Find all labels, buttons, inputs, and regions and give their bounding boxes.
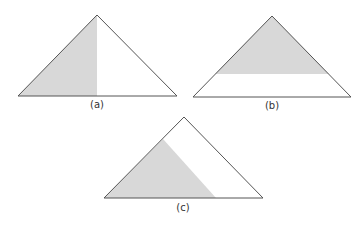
triangles-diagram: (a) (b) (c) bbox=[0, 0, 359, 225]
figure-b: (b) bbox=[193, 16, 351, 111]
shaded-region-b bbox=[215, 16, 329, 74]
label-b: (b) bbox=[265, 100, 279, 111]
label-a: (a) bbox=[90, 99, 104, 110]
label-c: (c) bbox=[176, 202, 189, 213]
figure-c: (c) bbox=[104, 117, 263, 213]
shaded-region-c bbox=[104, 139, 216, 198]
figure-a: (a) bbox=[18, 15, 177, 110]
